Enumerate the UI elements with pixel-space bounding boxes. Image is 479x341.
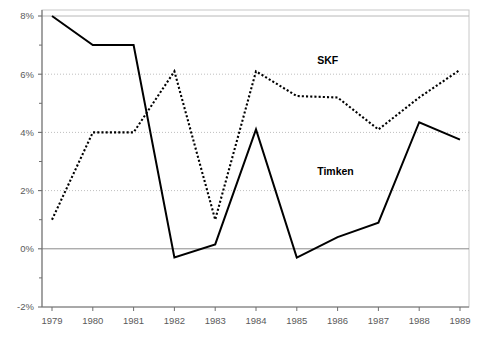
x-tick-label: 1981: [123, 315, 144, 326]
chart-background: [0, 0, 479, 341]
series-label-skf: SKF: [317, 54, 339, 66]
y-tick-label: -2%: [17, 301, 34, 312]
x-tick-label: 1983: [205, 315, 226, 326]
y-tick-label: 8%: [20, 10, 34, 21]
x-tick-label: 1989: [449, 315, 470, 326]
x-tick-label: 1985: [286, 315, 307, 326]
x-tick-label: 1982: [164, 315, 185, 326]
y-tick-label: 2%: [20, 185, 34, 196]
y-tick-label: 4%: [20, 127, 34, 138]
x-tick-label: 1988: [409, 315, 430, 326]
chart-container: 8%6%4%2%0%-2% 19791980198119821983198419…: [0, 0, 479, 341]
y-tick-label: 0%: [20, 243, 34, 254]
line-chart: 8%6%4%2%0%-2% 19791980198119821983198419…: [0, 0, 479, 341]
series-label-timken: Timken: [317, 165, 354, 177]
y-tick-label: 6%: [20, 69, 34, 80]
x-tick-label: 1984: [245, 315, 266, 326]
x-tick-label: 1986: [327, 315, 348, 326]
x-tick-label: 1987: [368, 315, 389, 326]
x-tick-label: 1980: [82, 315, 103, 326]
x-tick-label: 1979: [41, 315, 62, 326]
